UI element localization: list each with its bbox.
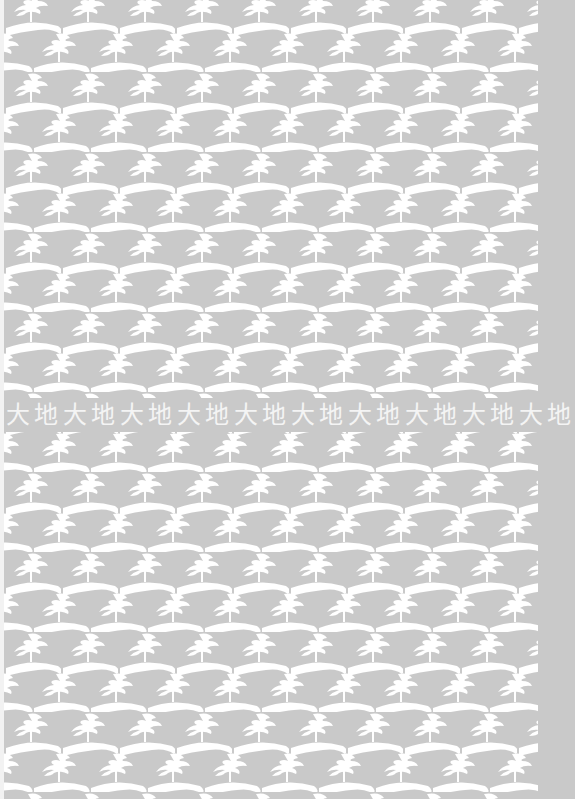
band-word: 大地 [228,398,285,432]
band-word: 大地 [114,398,171,432]
band-word: 大地 [0,398,57,432]
title-band: 大地大地大地大地大地大地大地大地大地大地 [0,398,575,432]
band-word: 大地 [399,398,456,432]
band-word: 大地 [456,398,513,432]
band-word: 大地 [513,398,570,432]
band-word: 大地 [57,398,114,432]
band-word: 大地 [171,398,228,432]
band-word: 大地 [285,398,342,432]
band-word: 大地 [342,398,399,432]
